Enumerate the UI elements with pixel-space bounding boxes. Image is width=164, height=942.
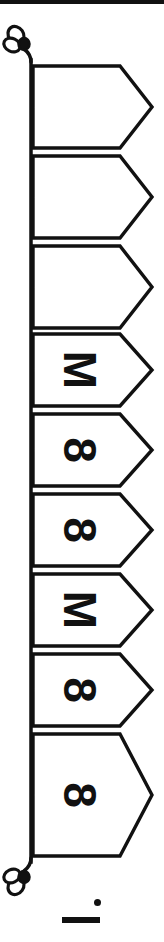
banner-letter: 8 bbox=[54, 677, 106, 703]
banner-flag: 8 bbox=[33, 654, 152, 726]
banner-figure: M 8 8 M 8 8 bbox=[0, 0, 164, 942]
banner-letter: M bbox=[54, 591, 106, 629]
banner-flag: 8 bbox=[33, 494, 152, 566]
banner-rope bbox=[24, 49, 31, 871]
rope-knot-top-icon bbox=[2, 23, 30, 54]
banner-flag bbox=[33, 246, 152, 328]
banner-letter: 8 bbox=[54, 437, 106, 463]
banner-flag bbox=[33, 66, 152, 148]
caption-dot-mark bbox=[94, 899, 101, 906]
banner-letter: 8 bbox=[54, 782, 106, 808]
caption-stem-mark bbox=[62, 917, 100, 923]
banner-string-illustration: M 8 8 M 8 8 bbox=[0, 0, 164, 942]
banner-flag: 8 bbox=[33, 734, 152, 856]
rope-knot-bottom-icon bbox=[2, 867, 30, 898]
banner-letter: 8 bbox=[54, 517, 106, 543]
banner-flag: M bbox=[33, 574, 152, 646]
banner-flag: M bbox=[33, 334, 152, 406]
banner-flag: 8 bbox=[33, 414, 152, 486]
banner-letter: M bbox=[54, 351, 106, 389]
banner-flag bbox=[33, 156, 152, 238]
